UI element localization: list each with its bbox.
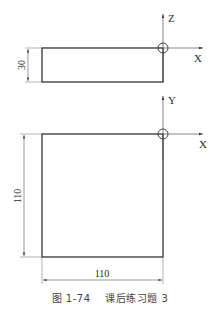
technical-drawing: Z X 30 Y X 110 110 bbox=[0, 0, 220, 314]
zx-rectangle bbox=[42, 48, 163, 82]
x-axis-label-top: X bbox=[194, 52, 202, 64]
figure-title: 课后练习题 3 bbox=[105, 290, 168, 305]
yx-square bbox=[42, 134, 163, 257]
dim-label-height-110: 110 bbox=[12, 189, 23, 204]
z-axis-label: Z bbox=[168, 12, 175, 24]
x-axis-label-bottom: X bbox=[199, 138, 207, 150]
figure-caption: 图 1-74 课后练习题 3 bbox=[0, 290, 220, 305]
y-axis-label: Y bbox=[168, 94, 176, 106]
dim-label-30: 30 bbox=[16, 60, 27, 70]
yx-view: Y X 110 110 bbox=[12, 94, 207, 284]
dim-label-width-110: 110 bbox=[95, 268, 110, 279]
zx-view: Z X 30 bbox=[16, 12, 203, 82]
figure-number: 图 1-74 bbox=[52, 290, 91, 305]
